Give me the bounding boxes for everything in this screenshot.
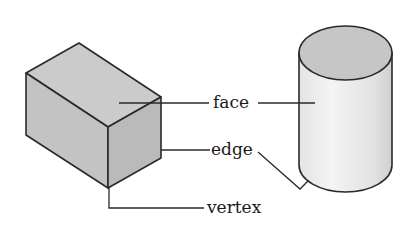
- rectangular-prism: [26, 43, 161, 188]
- vertex-label: vertex: [206, 197, 262, 217]
- cylinder-top-face: [299, 26, 392, 80]
- vertex-leader: [109, 188, 204, 208]
- face-label: face: [213, 92, 249, 112]
- cylinder: [299, 26, 392, 192]
- geometry-diagram: face edge vertex: [0, 0, 409, 229]
- edge-label: edge: [211, 139, 253, 159]
